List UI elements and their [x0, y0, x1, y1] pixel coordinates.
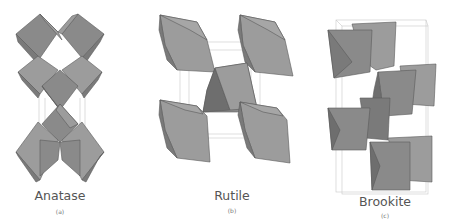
panel-title-brookite: Brookite	[355, 194, 415, 209]
panel-anatase: Anatase (a)	[0, 0, 135, 224]
panel-title-rutile: Rutile	[207, 188, 257, 203]
brookite-structure-diagram	[300, 0, 449, 224]
panel-sublabel-b: (b)	[207, 207, 257, 214]
panel-rutile: Rutile (b)	[135, 0, 300, 224]
panel-sublabel-a: (a)	[0, 208, 120, 215]
panel-sublabel-c: (c)	[355, 212, 415, 219]
panel-title-anatase: Anatase	[0, 188, 120, 203]
panel-brookite: Brookite (c)	[300, 0, 449, 224]
